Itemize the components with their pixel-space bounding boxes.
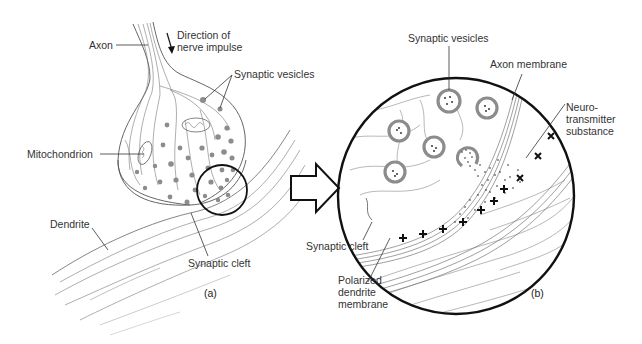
panel-b-vesicles: [385, 90, 497, 182]
zoom-in-arrow-icon: [291, 164, 339, 212]
membrane-charges: [399, 133, 554, 242]
label-synaptic-cleft-a: Synaptic cleft: [188, 257, 250, 269]
caption-a: (a): [204, 287, 217, 299]
label-synaptic-vesicles-b: Synaptic vesicles: [408, 32, 489, 44]
label-synaptic-vesicles-a: Synaptic vesicles: [234, 68, 315, 80]
label-polarized-dendrite-membrane: Polarized dendrite membrane: [338, 274, 388, 310]
diagram-drawing: [0, 0, 642, 344]
synapse-diagram: Axon Direction of nerve impulse Synaptic…: [0, 0, 642, 344]
label-synaptic-cleft-b: Synaptic cleft: [306, 240, 368, 252]
label-dendrite: Dendrite: [50, 218, 90, 230]
label-axon-membrane: Axon membrane: [490, 58, 567, 70]
label-axon: Axon: [89, 39, 113, 51]
panel-a-vesicles: [135, 97, 236, 205]
label-mitochondrion: Mitochondrion: [27, 148, 93, 160]
label-neurotransmitter-substance: Neuro- transmitter substance: [566, 101, 616, 137]
label-direction-of-impulse: Direction of nerve impulse: [177, 29, 242, 53]
caption-b: (b): [531, 287, 544, 299]
